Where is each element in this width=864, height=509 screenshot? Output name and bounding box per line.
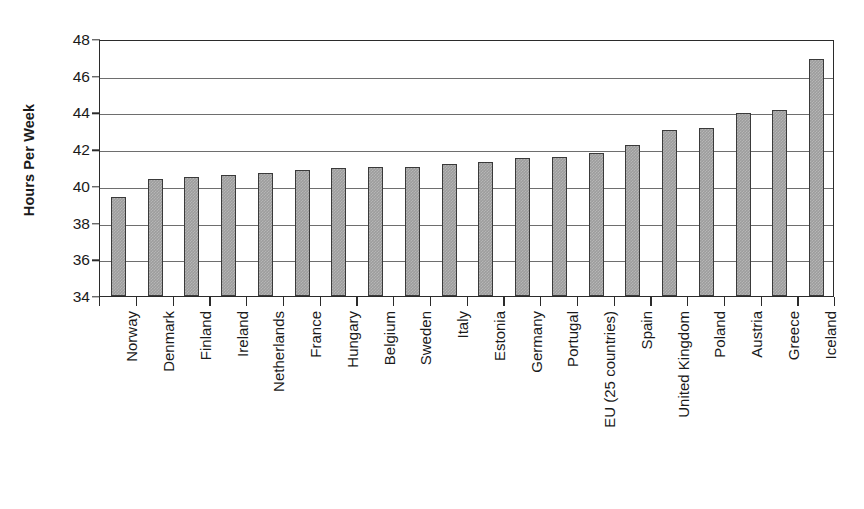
y-axis-tick-label: 44 bbox=[48, 104, 90, 122]
x-axis-tick-mark bbox=[761, 297, 762, 306]
bar-chart-figure: Hours Per Week 3436384042444648 NorwayDe… bbox=[0, 0, 864, 509]
bar-series bbox=[100, 41, 833, 296]
x-axis-category-label: Portugal bbox=[564, 311, 581, 367]
bar bbox=[295, 170, 310, 296]
x-axis-category-label: Iceland bbox=[822, 311, 839, 359]
x-axis-tick-mark bbox=[136, 297, 137, 306]
x-axis-category-label: Netherlands bbox=[270, 311, 287, 392]
y-axis-tick-label: 46 bbox=[48, 68, 90, 86]
bar bbox=[736, 113, 751, 296]
x-axis-category-label: Ireland bbox=[234, 311, 251, 357]
bar bbox=[258, 173, 273, 296]
x-axis-tick-mark bbox=[393, 297, 394, 306]
bar bbox=[662, 130, 677, 296]
x-axis-category-label: Norway bbox=[123, 311, 140, 362]
y-axis-title: Hours Per Week bbox=[14, 60, 44, 260]
x-axis-tick-mark bbox=[540, 297, 541, 306]
x-axis-tick-mark bbox=[283, 297, 284, 306]
x-axis-category-label: Finland bbox=[197, 311, 214, 360]
bar bbox=[111, 197, 126, 296]
x-axis-tick-mark bbox=[356, 297, 357, 306]
x-axis-category-label: Greece bbox=[785, 311, 802, 360]
bar bbox=[589, 153, 604, 296]
x-axis-category-label: Belgium bbox=[381, 311, 398, 365]
bar bbox=[552, 157, 567, 297]
x-axis-category-label: United Kingdom bbox=[675, 311, 692, 418]
x-axis-tick-mark bbox=[467, 297, 468, 306]
bar bbox=[772, 110, 787, 296]
x-axis-tick-mark bbox=[834, 297, 835, 306]
x-axis-tick-mark bbox=[797, 297, 798, 306]
x-axis-category-label: Italy bbox=[454, 311, 471, 339]
y-axis-tick-label: 34 bbox=[48, 288, 90, 306]
x-axis-tick-mark bbox=[99, 297, 100, 306]
x-axis-tick-mark bbox=[687, 297, 688, 306]
bar bbox=[331, 168, 346, 296]
x-axis-tick-mark bbox=[320, 297, 321, 306]
bar bbox=[221, 175, 236, 296]
x-axis-tick-mark bbox=[503, 297, 504, 306]
bar bbox=[478, 162, 493, 296]
x-axis-tick-mark bbox=[724, 297, 725, 306]
x-axis-category-label: France bbox=[307, 311, 324, 358]
x-axis-category-label: Estonia bbox=[491, 311, 508, 361]
x-axis-category-label: Poland bbox=[711, 311, 728, 358]
x-axis-category-label: Germany bbox=[528, 311, 545, 373]
x-axis-tick-mark bbox=[246, 297, 247, 306]
bar bbox=[148, 179, 163, 296]
x-axis-tick-mark bbox=[430, 297, 431, 306]
bar bbox=[625, 145, 640, 296]
bar bbox=[809, 59, 824, 296]
x-axis-category-label: Sweden bbox=[417, 311, 434, 365]
bar bbox=[699, 128, 714, 296]
bar bbox=[368, 167, 383, 296]
bar bbox=[184, 177, 199, 296]
plot-area bbox=[99, 40, 834, 297]
bar bbox=[442, 164, 457, 296]
x-axis-category-label: EU (25 countries) bbox=[601, 311, 618, 428]
x-axis-tick-mark bbox=[650, 297, 651, 306]
bar bbox=[405, 167, 420, 296]
x-axis-tick-mark bbox=[614, 297, 615, 306]
x-axis-category-label: Denmark bbox=[160, 311, 177, 372]
x-axis-category-label: Hungary bbox=[344, 311, 361, 368]
bar bbox=[515, 158, 530, 296]
y-axis-tick-label: 42 bbox=[48, 141, 90, 159]
x-axis-tick-mark bbox=[577, 297, 578, 306]
y-axis-title-text: Hours Per Week bbox=[21, 104, 37, 216]
x-axis-tick-mark bbox=[173, 297, 174, 306]
y-axis-tick-label: 38 bbox=[48, 215, 90, 233]
y-axis-tick-label: 36 bbox=[48, 251, 90, 269]
x-axis-tick-mark bbox=[209, 297, 210, 306]
y-axis-tick-label: 40 bbox=[48, 178, 90, 196]
x-axis-category-label: Austria bbox=[748, 311, 765, 358]
y-axis-tick-label: 48 bbox=[48, 31, 90, 49]
x-axis-category-label: Spain bbox=[638, 311, 655, 349]
